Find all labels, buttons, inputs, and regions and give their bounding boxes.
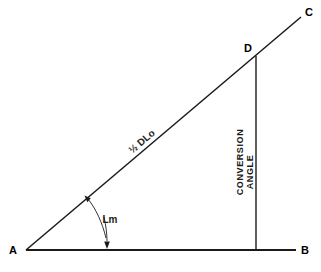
vertex-label-d: D [244, 42, 252, 54]
triangle-diagram-canvas: A B C D ½ DLo Lm CONVERSION ANGLE [0, 0, 321, 272]
diagram-root: A B C D ½ DLo Lm CONVERSION ANGLE [0, 0, 321, 272]
angle-label-lm: Lm [103, 214, 118, 225]
vertex-label-c: C [305, 6, 313, 18]
conversion-angle-label-line1: CONVERSION [235, 129, 245, 196]
vertex-label-b: B [301, 244, 309, 256]
vertex-label-a: A [9, 244, 17, 256]
conversion-angle-label-line2: ANGLE [245, 155, 255, 190]
